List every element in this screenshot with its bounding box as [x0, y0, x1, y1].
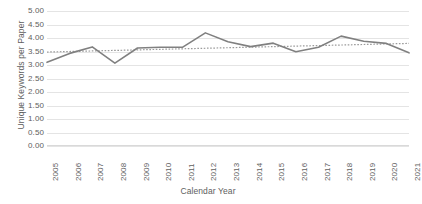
x-axis-tick-label: 2020: [390, 163, 399, 181]
y-axis-tick-label: 3.50: [0, 48, 44, 56]
x-axis-title: Calendar Year: [0, 186, 416, 196]
x-axis-tick-label: 2013: [232, 163, 241, 181]
x-axis-tick-label: 2011: [187, 163, 196, 181]
x-axis-tick-label: 2007: [96, 163, 105, 181]
x-axis-tick-label: 2015: [277, 163, 286, 181]
x-axis-tick-labels: 2005200620072008200920102011201220132014…: [47, 148, 409, 184]
y-axis-tick-label: 0.50: [0, 129, 44, 137]
x-axis-tick-label: 2006: [74, 163, 83, 181]
x-axis-tick-label: 2012: [209, 163, 218, 181]
x-axis-tick-label: 2008: [119, 163, 128, 181]
y-axis-tick-label: 5.00: [0, 7, 44, 15]
y-axis-tick-label: 4.50: [0, 21, 44, 29]
x-axis-tick-label: 2014: [255, 163, 264, 181]
x-axis-tick-label: 2017: [323, 163, 332, 181]
y-axis-tick-label: 3.00: [0, 61, 44, 69]
plot-area: [47, 11, 409, 146]
x-axis-tick-label: 2019: [368, 163, 377, 181]
x-axis-tick-label: 2005: [51, 163, 60, 181]
x-axis-tick-label: 2009: [142, 163, 151, 181]
y-axis-tick-labels: 5.004.504.003.503.002.502.001.501.000.50…: [0, 11, 44, 146]
series-line-path: [47, 33, 409, 63]
gridline: [47, 146, 409, 147]
y-axis-tick-label: 1.00: [0, 115, 44, 123]
y-axis-tick-label: 0.00: [0, 142, 44, 150]
y-axis-tick-label: 1.50: [0, 102, 44, 110]
x-axis-tick-label: 2018: [345, 163, 354, 181]
y-axis-tick-label: 2.00: [0, 88, 44, 96]
x-axis-tick-label: 2016: [300, 163, 309, 181]
x-axis-tick-label: 2021: [413, 163, 422, 181]
trendline-path: [47, 43, 409, 52]
y-axis-tick-label: 2.50: [0, 75, 44, 83]
series-canvas: [47, 11, 409, 146]
x-axis-tick-label: 2010: [164, 163, 173, 181]
y-axis-tick-label: 4.00: [0, 34, 44, 42]
